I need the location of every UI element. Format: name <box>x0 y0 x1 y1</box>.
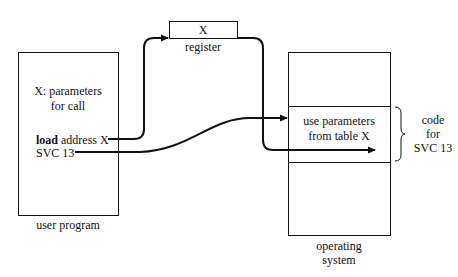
param-line-1: X: parameters <box>18 84 118 98</box>
os-code-line-2: from table X <box>288 129 390 143</box>
brace-label-line-3: SVC 13 <box>408 141 458 155</box>
register-label: register <box>169 40 237 54</box>
curly-brace-icon <box>395 107 405 161</box>
load-instruction: load address X <box>36 133 109 147</box>
user-program-label: user program <box>18 218 118 232</box>
operating-system-box <box>289 53 391 236</box>
load-keyword: load <box>36 133 58 147</box>
brace-label-line-1: code <box>408 113 458 127</box>
brace-label-line-2: for <box>408 127 458 141</box>
load-operand: address X <box>58 133 109 147</box>
register-value: X <box>169 23 237 37</box>
param-line-2: for call <box>18 99 118 113</box>
os-label-line-1: operating <box>288 239 390 253</box>
svc-instruction: SVC 13 <box>36 146 74 160</box>
os-label-line-2: system <box>288 253 390 267</box>
os-code-line-1: use parameters <box>288 114 390 128</box>
